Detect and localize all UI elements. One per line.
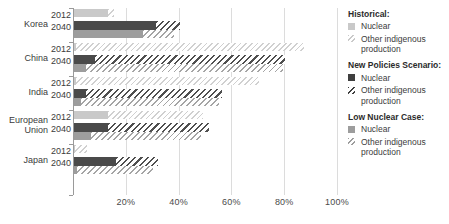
x-axis-tick-label: 40% [169,197,188,207]
bar-european-union-2040-new-policies-scenario [74,123,209,132]
category-label: China [0,53,48,63]
legend-item[interactable]: Nuclear [348,73,449,83]
year-label: 2040 [46,158,71,168]
x-axis-tick-label: 20% [116,197,135,207]
bar-segment-nuclear [74,21,156,30]
year-label: 2012 [46,10,71,20]
bar-india-2040-low-nuclear-case [74,98,219,106]
y-axis-tick [69,110,73,111]
bar-india-2012-historical [74,77,259,85]
category-group: Japan20122040 [0,144,345,178]
y-axis-tick [69,42,73,43]
chart-legend: Historical:NuclearOther indigenous produ… [348,0,449,224]
y-axis-tick [69,8,73,9]
bar-segment-nuclear [74,157,116,166]
legend-swatch-icon [348,74,355,81]
bar-china-2012-historical [74,43,304,51]
year-label: 2012 [46,146,71,156]
legend-swatch-icon [348,126,355,133]
legend-item[interactable]: Other indigenous production [348,137,449,158]
bar-segment-other-indigenous [91,132,201,140]
x-axis-tick-label: 80% [275,197,294,207]
category-group: Korea20122040 [0,8,345,42]
category-group: EuropeanUnion20122040 [0,110,345,144]
bar-india-2040-new-policies-scenario [74,89,222,98]
bar-segment-other-indigenous [95,55,285,64]
legend-swatch-icon [348,87,355,94]
legend-group-heading: Historical: [348,9,449,19]
bar-segment-nuclear [74,89,86,98]
legend-group-heading: Low Nuclear Case: [348,112,449,122]
legend-item[interactable]: Nuclear [348,21,449,31]
year-label: 2012 [46,44,71,54]
category-label: Japan [0,155,48,165]
bar-european-union-2012-historical [74,111,203,119]
bar-korea-2040-low-nuclear-case [74,30,174,38]
legend-swatch-icon [348,138,355,145]
legend-item-label: Other indigenous production [361,137,449,158]
year-label: 2040 [46,22,71,32]
category-label: EuropeanUnion [0,115,48,135]
x-axis-tick-label: 60% [222,197,241,207]
legend-group: Low Nuclear Case:NuclearOther indigenous… [348,112,449,157]
year-label: 2040 [46,90,71,100]
bar-segment-nuclear [74,132,91,140]
legend-group-heading: New Policies Scenario: [348,60,449,70]
bar-japan-2012-historical [74,145,87,153]
legend-item-label: Other indigenous production [361,34,449,55]
bar-japan-2040-low-nuclear-case [74,166,153,174]
legend-item-label: Nuclear [361,124,449,134]
bar-segment-nuclear [74,55,95,64]
bar-segment-other-indigenous [86,89,222,98]
legend-swatch-icon [348,35,355,42]
legend-item-label: Nuclear [361,21,449,31]
plot-area: 20%40%60%80%100%Korea20122040China201220… [0,0,345,224]
bar-china-2040-new-policies-scenario [74,55,285,64]
bar-china-2040-low-nuclear-case [74,64,283,72]
legend-group: Historical:NuclearOther indigenous produ… [348,9,449,54]
y-axis-tick [69,76,73,77]
legend-swatch-icon [348,23,355,30]
bar-segment-other-indigenous [76,77,259,85]
bar-korea-2012-historical [74,9,114,17]
bar-segment-other-indigenous [108,123,208,132]
year-label: 2012 [46,112,71,122]
bar-korea-2040-new-policies-scenario [74,21,180,30]
category-group: India20122040 [0,76,345,110]
bar-segment-nuclear [74,111,108,119]
category-label: Korea [0,19,48,29]
y-axis-tick [69,144,73,145]
bar-japan-2040-new-policies-scenario [74,157,158,166]
bar-segment-nuclear [74,30,143,38]
legend-item-label: Other indigenous production [361,85,449,106]
bar-segment-nuclear [74,9,108,17]
bar-european-union-2040-low-nuclear-case [74,132,201,140]
year-label: 2040 [46,56,71,66]
legend-item[interactable]: Other indigenous production [348,34,449,55]
bar-segment-other-indigenous [81,98,220,106]
year-label: 2040 [46,124,71,134]
bar-segment-other-indigenous [76,43,304,51]
bar-segment-nuclear [74,98,81,106]
y-axis-tick-end [69,195,73,196]
bar-segment-other-indigenous [108,111,203,119]
legend-item[interactable]: Nuclear [348,124,449,134]
bar-segment-other-indigenous [156,21,180,30]
chart-page: 20%40%60%80%100%Korea20122040China201220… [0,0,449,224]
category-group: China20122040 [0,42,345,76]
bar-segment-other-indigenous [86,64,283,72]
bar-segment-other-indigenous [77,166,154,174]
x-axis-tick-label: 100% [325,197,349,207]
bar-segment-nuclear [74,64,86,72]
bar-segment-other-indigenous [75,145,87,153]
bar-segment-other-indigenous [108,9,113,17]
category-label: India [0,87,48,97]
bar-segment-nuclear [74,123,108,132]
legend-item[interactable]: Other indigenous production [348,85,449,106]
bar-segment-other-indigenous [143,30,175,38]
year-label: 2012 [46,78,71,88]
bar-segment-other-indigenous [116,157,158,166]
legend-group: New Policies Scenario:NuclearOther indig… [348,60,449,105]
legend-item-label: Nuclear [361,73,449,83]
